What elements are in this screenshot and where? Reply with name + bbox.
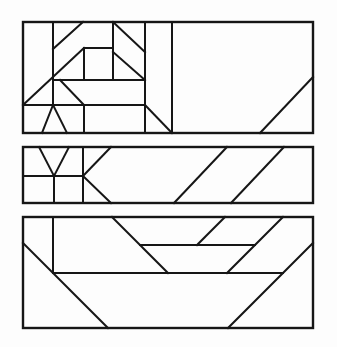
middle-panel <box>23 147 313 203</box>
bottom-panel-segment-5 <box>197 217 225 245</box>
middle-panel-segment-6 <box>83 176 111 203</box>
top-panel-border <box>23 22 313 133</box>
middle-panel-segment-2 <box>39 147 54 176</box>
bottom-panel-segment-7 <box>228 243 313 328</box>
top-panel-segment-11 <box>113 52 145 80</box>
top-panel-segment-15 <box>53 105 67 133</box>
middle-panel-segment-8 <box>231 147 284 203</box>
middle-panel-segment-7 <box>174 147 227 203</box>
top-panel-segment-14 <box>42 105 53 133</box>
top-panel-segment-13 <box>60 80 84 105</box>
top-panel-segment-17 <box>260 77 313 133</box>
drawing-svg <box>0 0 337 347</box>
bottom-panel-segment-3 <box>23 243 108 328</box>
top-panel-segment-16 <box>145 105 172 133</box>
geometric-line-drawing <box>0 0 337 347</box>
middle-panel-segment-5 <box>83 147 111 176</box>
top-panel-segment-10 <box>113 22 145 52</box>
middle-panel-segment-3 <box>54 147 69 176</box>
top-panel <box>23 22 313 133</box>
top-panel-segment-9 <box>53 22 83 49</box>
bottom-panel <box>23 217 313 328</box>
